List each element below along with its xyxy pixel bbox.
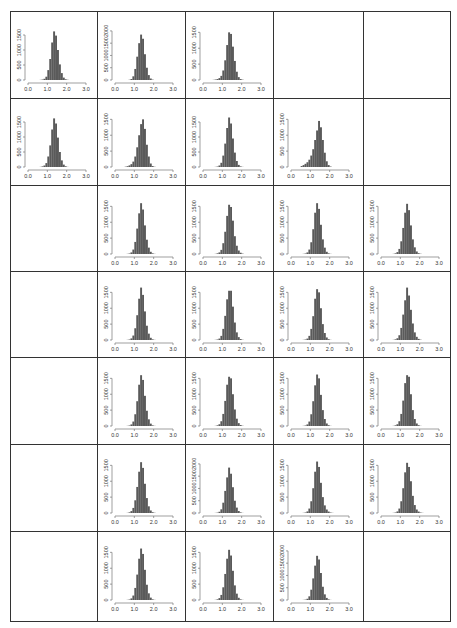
histogram-bar (314, 213, 316, 254)
grid-cell-r3-c3: 0500100015000.01.02.03.0 (186, 186, 274, 272)
histogram-bar (65, 79, 67, 80)
histogram-bar (316, 130, 318, 167)
histogram-bar (146, 68, 148, 80)
histogram-bar (148, 75, 150, 80)
histogram-bar (398, 335, 400, 340)
histogram-bar (217, 425, 219, 426)
histogram-bar (129, 512, 131, 513)
y-tick-label: 0 (279, 598, 285, 601)
histogram-panel: 0500100015000.01.02.03.0 (98, 99, 184, 185)
x-tick-label: 3.0 (82, 173, 90, 179)
histogram-bar (303, 165, 305, 167)
y-tick-label: 500 (103, 234, 109, 243)
x-tick-label: 3.0 (435, 432, 443, 438)
y-tick-label: 1500 (279, 286, 285, 298)
x-tick-label: 3.0 (169, 519, 177, 525)
histogram-bar (240, 79, 242, 80)
x-tick-label: 3.0 (257, 173, 265, 179)
histogram-bar (222, 70, 224, 80)
histogram-bar (51, 130, 53, 168)
x-tick-label: 2.0 (150, 606, 158, 612)
histogram-bar (218, 78, 220, 80)
histogram-bar (416, 337, 418, 340)
histogram-bar (320, 308, 322, 340)
x-tick-label: 0.0 (199, 606, 207, 612)
histogram-bar (402, 228, 404, 254)
histogram-bar (220, 76, 222, 80)
histogram-bar (61, 73, 63, 80)
x-tick-label: 3.0 (169, 260, 177, 266)
histogram-bar (232, 139, 234, 168)
histogram-bar (312, 149, 314, 167)
x-tick-label: 2.0 (238, 346, 246, 352)
histogram-bar (232, 47, 234, 80)
y-tick-label: 1500 (369, 286, 375, 298)
histogram-bar (152, 512, 154, 513)
histogram-bar (404, 383, 406, 426)
grid-cell-r7-c1 (11, 532, 98, 621)
histogram-bar (136, 229, 138, 254)
y-tick-label: 500 (191, 60, 197, 69)
histogram-bar (314, 385, 316, 426)
x-tick-label: 3.0 (435, 346, 443, 352)
histogram-bar (217, 253, 219, 254)
histogram-bar (412, 410, 414, 426)
histogram-bar (398, 249, 400, 254)
histogram-bar (308, 509, 310, 513)
y-tick-label: 0 (191, 424, 197, 427)
histogram-panel: 0500100015000.01.02.03.0 (364, 272, 450, 358)
histogram-bar (53, 118, 55, 167)
histogram-bar (402, 488, 404, 513)
histogram-bar (53, 31, 55, 80)
x-tick-label: 0.0 (199, 260, 207, 266)
histogram-bar (132, 422, 134, 426)
x-tick-label: 0.0 (111, 260, 119, 266)
histogram-bar (310, 242, 312, 254)
y-tick-label: 0 (103, 252, 109, 255)
histogram-bar (226, 385, 228, 426)
x-tick-label: 1.0 (44, 86, 52, 92)
x-tick-label: 0.0 (377, 432, 385, 438)
x-tick-label: 1.0 (131, 346, 139, 352)
y-tick-label: 1500 (103, 459, 109, 471)
histogram-bar (226, 216, 228, 254)
histogram-bar (312, 316, 314, 340)
histogram-bar (136, 401, 138, 426)
histogram-bar (43, 166, 45, 168)
histogram-bar (406, 204, 408, 254)
histogram-bar (322, 587, 324, 600)
histogram-bar (240, 253, 242, 254)
y-tick-label: 1000 (279, 216, 285, 228)
histogram-bar (234, 153, 236, 167)
histogram-bar (140, 549, 142, 600)
histogram-bar (150, 79, 152, 80)
histogram-bar (45, 163, 47, 167)
histogram-bar (224, 316, 226, 340)
x-tick-label: 2.0 (416, 519, 424, 525)
histogram-bar (324, 333, 326, 340)
histogram-bar (306, 339, 308, 340)
histogram-bar (130, 511, 132, 513)
histogram-bar (238, 77, 240, 80)
x-tick-label: 0.0 (199, 432, 207, 438)
histogram-bar (222, 329, 224, 340)
histogram-bar (310, 501, 312, 513)
histogram-bar (148, 506, 150, 513)
histogram-bar (236, 246, 238, 254)
histogram-panel: 0500100015000.01.02.03.0 (98, 272, 184, 358)
y-tick-label: 500 (279, 147, 285, 156)
y-tick-label: 500 (16, 60, 22, 69)
histogram-bar (406, 463, 408, 513)
x-tick-label: 3.0 (345, 173, 353, 179)
x-tick-label: 2.0 (238, 173, 246, 179)
histogram-bar (234, 409, 236, 426)
histogram-bar (148, 419, 150, 426)
histogram-panel: 0500100015000.01.02.03.0 (274, 272, 360, 358)
histogram-bar (146, 411, 148, 426)
y-tick-label: 0 (279, 165, 285, 168)
histogram-bar (398, 509, 400, 513)
histogram-bar (228, 468, 230, 513)
histogram-bar (328, 599, 330, 600)
x-tick-label: 3.0 (169, 432, 177, 438)
histogram-bar (395, 425, 397, 426)
